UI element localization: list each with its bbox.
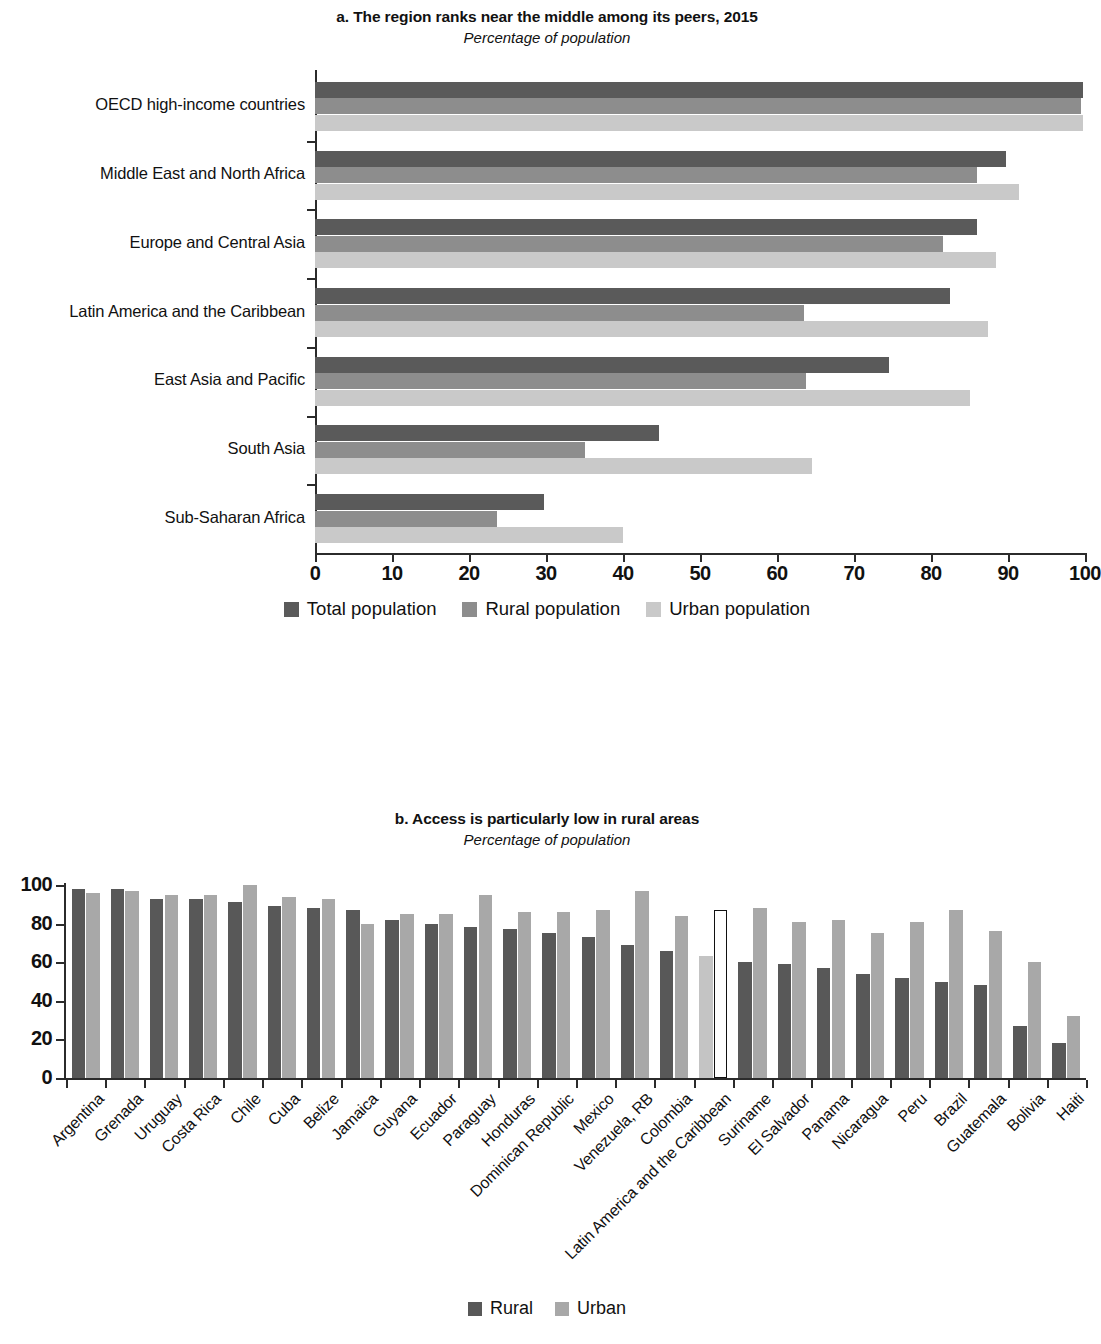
panel-b-y-tick bbox=[56, 885, 65, 887]
panel-b-x-tick bbox=[890, 1080, 892, 1088]
panel-b-legend-swatch bbox=[555, 1302, 569, 1316]
panel-a-bar-rural bbox=[315, 167, 977, 183]
panel-b-y-tick bbox=[56, 924, 65, 926]
panel-a-bar-total bbox=[315, 82, 1083, 98]
panel-a-bar-rural bbox=[315, 442, 585, 458]
panel-a-legend-swatch bbox=[284, 602, 299, 617]
panel-a-bar-total bbox=[315, 288, 950, 304]
panel-b-bar-urban bbox=[439, 914, 453, 1078]
panel-b-bar-rural-highlight bbox=[699, 956, 713, 1078]
panel-b-bar-urban bbox=[204, 895, 218, 1078]
panel-b-bar-rural bbox=[503, 929, 517, 1078]
panel-b-bar-rural bbox=[150, 899, 164, 1078]
panel-a-x-tick-label: 30 bbox=[535, 562, 556, 585]
panel-a-x-tick bbox=[315, 553, 317, 562]
panel-b-y-tick-label: 80 bbox=[31, 912, 52, 935]
panel-a-x-tick-label: 40 bbox=[612, 562, 633, 585]
panel-b-bar-urban bbox=[86, 893, 100, 1078]
panel-b-category-label: Cuba bbox=[264, 1090, 303, 1129]
panel-b-bar-rural bbox=[425, 924, 439, 1078]
panel-a-x-tick bbox=[623, 553, 625, 562]
panel-b-bar-rural bbox=[935, 982, 949, 1079]
panel-b-bar-urban bbox=[125, 891, 139, 1078]
panel-a-y-tick bbox=[307, 416, 316, 418]
panel-b-bar-rural bbox=[189, 899, 203, 1078]
panel-b-x-tick bbox=[1008, 1080, 1010, 1088]
panel-b-legend-swatch bbox=[468, 1302, 482, 1316]
panel-b-y-tick bbox=[56, 1078, 65, 1080]
panel-b-y-tick bbox=[56, 1039, 65, 1041]
panel-a-bar-urban bbox=[315, 115, 1083, 131]
panel-b-bar-rural bbox=[895, 978, 909, 1078]
panel-b-category-label: Haiti bbox=[1053, 1090, 1088, 1125]
panel-a-legend: Total populationRural populationUrban po… bbox=[0, 598, 1094, 620]
panel-b-bar-urban bbox=[910, 922, 924, 1078]
panel-b-bar-rural bbox=[346, 910, 360, 1078]
panel-a-category-label: East Asia and Pacific bbox=[154, 370, 305, 389]
panel-a-bar-rural bbox=[315, 98, 1081, 114]
panel-b-bar-rural bbox=[778, 964, 792, 1078]
panel-b-bar-urban bbox=[479, 895, 493, 1078]
panel-b-y-tick-label: 100 bbox=[20, 873, 52, 896]
panel-b-bar-urban bbox=[518, 912, 532, 1078]
panel-a-x-tick bbox=[777, 553, 779, 562]
panel-b-x-tick bbox=[811, 1080, 813, 1088]
panel-b-x-tick bbox=[380, 1080, 382, 1088]
panel-b-x-tick bbox=[1047, 1080, 1049, 1088]
panel-b-bar-rural bbox=[1013, 1026, 1027, 1078]
panel-b-bar-rural bbox=[111, 889, 125, 1078]
panel-a-x-tick bbox=[1085, 553, 1087, 562]
panel-a-bar-total bbox=[315, 219, 977, 235]
panel-a-x-tick-label: 70 bbox=[843, 562, 864, 585]
panel-b-x-tick bbox=[301, 1080, 303, 1088]
panel-a-bar-urban bbox=[315, 527, 623, 543]
panel-b-x-tick bbox=[419, 1080, 421, 1088]
panel-b-bar-rural bbox=[621, 945, 635, 1078]
panel-b-x-tick bbox=[262, 1080, 264, 1088]
panel-b-x-tick bbox=[929, 1080, 931, 1088]
panel-b-bar-rural bbox=[582, 937, 596, 1078]
panel-a-legend-label: Urban population bbox=[669, 598, 810, 620]
panel-a-x-tick bbox=[469, 553, 471, 562]
panel-a-category-label: Sub-Saharan Africa bbox=[165, 508, 305, 527]
panel-b-bar-urban bbox=[832, 920, 846, 1078]
panel-b-legend-item: Rural bbox=[468, 1298, 533, 1319]
panel-a-chart: a. The region ranks near the middle amon… bbox=[0, 0, 1094, 660]
panel-a-legend-label: Total population bbox=[307, 598, 437, 620]
panel-b-x-tick bbox=[537, 1080, 539, 1088]
panel-a-x-tick bbox=[392, 553, 394, 562]
panel-a-x-tick bbox=[700, 553, 702, 562]
panel-a-y-tick bbox=[307, 278, 316, 280]
panel-b-bar-urban bbox=[282, 897, 296, 1078]
panel-b-x-tick bbox=[458, 1080, 460, 1088]
panel-a-category-label: Middle East and North Africa bbox=[100, 164, 305, 183]
panel-a-x-tick-label: 80 bbox=[920, 562, 941, 585]
panel-b-x-tick bbox=[1086, 1080, 1088, 1088]
panel-b-bar-rural bbox=[817, 968, 831, 1078]
panel-b-bar-rural bbox=[307, 908, 321, 1078]
panel-a-bar-urban bbox=[315, 321, 988, 337]
panel-b-y-tick bbox=[56, 962, 65, 964]
panel-b-y-tick-label: 20 bbox=[31, 1027, 52, 1050]
panel-a-legend-swatch bbox=[462, 602, 477, 617]
panel-b-bar-urban-highlight bbox=[714, 910, 728, 1078]
panel-b-bar-urban bbox=[989, 931, 1003, 1078]
panel-a-bar-total bbox=[315, 357, 889, 373]
panel-a-legend-label: Rural population bbox=[485, 598, 620, 620]
panel-b-x-tick bbox=[105, 1080, 107, 1088]
panel-b-y-tick-label: 0 bbox=[41, 1066, 52, 1089]
panel-b-y-tick-label: 40 bbox=[31, 989, 52, 1012]
panel-b-bar-urban bbox=[792, 922, 806, 1078]
panel-a-bar-urban bbox=[315, 252, 996, 268]
panel-a-legend-item: Total population bbox=[284, 598, 437, 620]
panel-a-legend-item: Rural population bbox=[462, 598, 620, 620]
panel-a-category-label: South Asia bbox=[228, 439, 305, 458]
panel-a-x-tick-label: 20 bbox=[458, 562, 479, 585]
panel-a-x-tick-label: 60 bbox=[766, 562, 787, 585]
panel-b-bar-urban bbox=[361, 924, 375, 1078]
panel-a-y-tick bbox=[307, 484, 316, 486]
panel-b-bar-urban bbox=[871, 933, 885, 1078]
panel-b-bar-urban bbox=[675, 916, 689, 1078]
panel-b-bar-urban bbox=[596, 910, 610, 1078]
panel-b-bar-rural bbox=[542, 933, 556, 1078]
